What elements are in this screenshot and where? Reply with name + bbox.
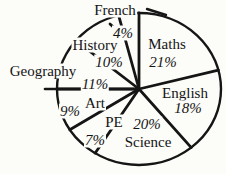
slice-pct-geography: 11% — [81, 77, 109, 92]
slice-label-french: French — [93, 3, 137, 18]
slice-label-english: English — [161, 86, 209, 101]
slice-pct-art: 9% — [59, 104, 81, 119]
slice-label-maths: Maths — [147, 37, 187, 52]
slice-pct-pe: 7% — [84, 133, 106, 148]
pie-chart-figure: Maths 21% English 18% 20% Science PE 7% … — [0, 0, 226, 174]
slice-label-geography: Geography — [9, 64, 78, 79]
slice-pct-english: 18% — [173, 101, 203, 116]
slice-pct-history: 10% — [94, 55, 124, 70]
slice-label-art: Art — [84, 96, 106, 111]
slice-pct-maths: 21% — [148, 55, 178, 70]
slice-pct-science: 20% — [132, 117, 162, 132]
slice-pct-french: 4% — [112, 26, 134, 41]
slice-label-pe: PE — [104, 115, 124, 130]
slice-label-science: Science — [124, 135, 173, 150]
